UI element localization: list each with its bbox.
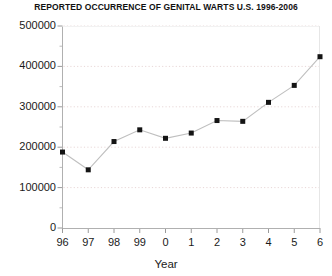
data-point bbox=[60, 150, 65, 155]
data-point bbox=[266, 100, 271, 105]
gridlines bbox=[64, 26, 320, 188]
x-tick-label: 6 bbox=[308, 237, 332, 248]
data-markers bbox=[60, 54, 323, 172]
x-tick-label: 99 bbox=[128, 237, 152, 248]
data-line bbox=[63, 57, 321, 170]
data-point bbox=[163, 136, 168, 141]
x-tick-label: 98 bbox=[102, 237, 126, 248]
chart-container: REPORTED OCCURRENCE OF GENITAL WARTS U.S… bbox=[0, 0, 332, 276]
data-point bbox=[292, 83, 297, 88]
y-tick-label: 400000 bbox=[19, 60, 56, 71]
x-tick-label: 2 bbox=[205, 237, 229, 248]
x-tick-label: 0 bbox=[154, 237, 178, 248]
y-tick-label: 300000 bbox=[19, 101, 56, 112]
data-point bbox=[189, 131, 194, 136]
x-tick-label: 97 bbox=[76, 237, 100, 248]
x-tick-label: 96 bbox=[51, 237, 75, 248]
x-axis-title: Year bbox=[0, 258, 332, 270]
y-tick-label: 0 bbox=[50, 222, 56, 233]
data-point bbox=[318, 54, 323, 59]
y-tick-label: 200000 bbox=[19, 141, 56, 152]
data-point bbox=[86, 167, 91, 172]
y-tick-label: 500000 bbox=[19, 20, 56, 31]
data-point bbox=[240, 119, 245, 124]
x-tick-label: 4 bbox=[257, 237, 281, 248]
plot-area bbox=[0, 0, 332, 276]
data-point bbox=[112, 139, 117, 144]
y-tick-label: 100000 bbox=[19, 182, 56, 193]
x-tick-label: 1 bbox=[179, 237, 203, 248]
x-tick-label: 3 bbox=[231, 237, 255, 248]
data-point bbox=[215, 118, 220, 123]
x-tick-label: 5 bbox=[282, 237, 306, 248]
data-point bbox=[137, 127, 142, 132]
